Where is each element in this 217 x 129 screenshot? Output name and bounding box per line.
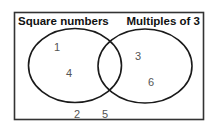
set-a-label: Square numbers	[18, 15, 109, 27]
element-4: 4	[66, 67, 72, 79]
element-6: 6	[148, 76, 154, 88]
element-1: 1	[54, 41, 60, 53]
element-2: 2	[74, 108, 80, 120]
set-b-label: Multiples of 3	[127, 15, 200, 27]
element-3: 3	[135, 50, 141, 62]
universal-set-frame	[15, 13, 204, 120]
element-5: 5	[102, 108, 108, 120]
venn-diagram: Square numbers Multiples of 3 1 4 3 6 2 …	[0, 0, 217, 129]
